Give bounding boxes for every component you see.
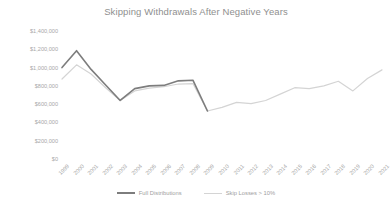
legend-line-swatch-icon: [204, 193, 222, 194]
legend-item-label: Full Distributions: [139, 190, 182, 196]
series-line: [62, 65, 382, 111]
chart-container: Skipping Withdrawals After Negative Year…: [0, 0, 392, 215]
plot-area: [0, 0, 392, 215]
legend-line-swatch-icon: [117, 192, 135, 194]
chart-legend: Full DistributionsSkip Losses > 10%: [0, 190, 392, 196]
legend-item[interactable]: Full Distributions: [117, 190, 182, 196]
legend-item-label: Skip Losses > 10%: [226, 190, 275, 196]
legend-item[interactable]: Skip Losses > 10%: [204, 190, 275, 196]
series-line: [62, 51, 207, 111]
